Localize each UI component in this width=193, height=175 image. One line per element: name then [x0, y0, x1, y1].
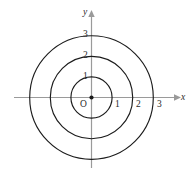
y-axis-label: y — [83, 8, 87, 18]
y-tick-label-1: 1 — [83, 72, 88, 82]
origin-label: O — [80, 100, 87, 110]
x-axis-label: x — [181, 93, 185, 103]
x-tick-label-2: 2 — [136, 100, 141, 110]
x-tick-label-3: 3 — [157, 100, 162, 110]
y-tick-label-3: 3 — [83, 30, 88, 40]
origin-point-dot — [89, 95, 93, 99]
x-axis-arrowhead — [174, 94, 181, 100]
coordinate-plane-svg — [0, 0, 193, 175]
y-tick-label-2: 2 — [83, 51, 88, 61]
concentric-circles-figure: x y O 1 2 3 1 2 3 — [0, 0, 193, 175]
x-tick-label-1: 1 — [115, 100, 120, 110]
y-axis-arrowhead — [88, 10, 94, 17]
